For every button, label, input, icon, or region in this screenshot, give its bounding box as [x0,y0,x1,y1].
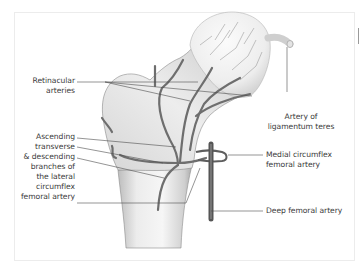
label-deep-femoral-artery: Deep femoral artery [266,206,342,216]
label-artery-of-ligamentum-teres: Artery of ligamentum teres [262,112,340,132]
label-retinacular-arteries: Retinacular arteries [0,76,75,96]
label-medial-circumflex-femoral-artery: Medial circumflex femoral artery [266,150,332,170]
femoral-shaft [118,165,192,248]
label-ascending: Ascending transverse & descending branch… [0,132,75,202]
